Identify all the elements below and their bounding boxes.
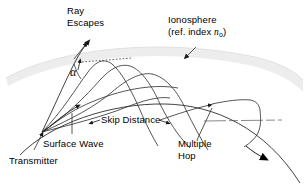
skip-distance-label: Skip Distance (101, 114, 160, 125)
multiple-hop-leader (197, 108, 212, 140)
surface-wave-label: Surface Wave (43, 138, 104, 149)
ray-escapes-line1: Ray (67, 5, 84, 16)
horizontal-reference-line (204, 120, 282, 121)
alpha-angle-label: α (70, 66, 76, 78)
ray-escapes-label: Ray Escapes (67, 5, 104, 28)
ionosphere-label: Ionosphere (ref. index no) (168, 14, 226, 40)
ionosphere-line1: Ionosphere (168, 14, 217, 25)
ionosphere-line2: (ref. index no) (168, 26, 226, 37)
ionosphere-suffix: ) (223, 26, 226, 37)
ionosphere-layer (6, 47, 303, 92)
ionosphere-prefix: (ref. index (168, 26, 214, 37)
multiple-hop-label: Multiple Hop (178, 138, 212, 161)
transmitter-label: Transmitter (9, 155, 58, 166)
multiple-hop-line1: Multiple (178, 138, 212, 149)
multiple-hop-line2: Hop (178, 150, 196, 161)
ray-escapes-line2: Escapes (67, 17, 104, 28)
ionospheric-propagation-figure: Ray Escapes Ionosphere (ref. index no) α… (0, 0, 307, 190)
